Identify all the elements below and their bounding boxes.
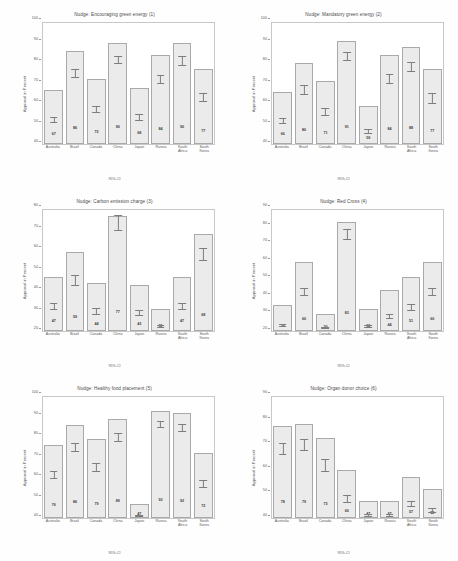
- error-bar-cap-top: [407, 62, 415, 63]
- bar[interactable]: 77: [108, 216, 127, 331]
- bar[interactable]: 86: [66, 51, 85, 144]
- bar[interactable]: 33: [359, 309, 378, 331]
- bar[interactable]: 76: [44, 445, 63, 518]
- bar[interactable]: 47: [359, 501, 378, 518]
- bar[interactable]: 91: [337, 41, 356, 144]
- error-bar: [71, 443, 79, 452]
- bar-series: 7686798947939272: [43, 397, 214, 518]
- error-bar-line: [75, 275, 76, 285]
- error-bar: [364, 325, 372, 327]
- bar[interactable]: 90: [173, 43, 192, 144]
- bar[interactable]: 60: [423, 262, 442, 331]
- bar[interactable]: 43: [130, 285, 149, 331]
- y-tick-label: 60: [263, 98, 267, 102]
- bar[interactable]: 78: [273, 426, 292, 518]
- bar[interactable]: 79: [87, 439, 106, 518]
- bar[interactable]: 84: [151, 55, 170, 144]
- x-tick-label: Russia: [151, 145, 170, 165]
- bar-value-label: 60: [424, 317, 441, 321]
- error-bar-cap-bottom: [135, 315, 143, 316]
- bar[interactable]: 59: [66, 252, 85, 331]
- y-axis-ticks: 405060708090100: [20, 396, 41, 519]
- bar[interactable]: 66: [273, 92, 292, 144]
- bar[interactable]: 72: [87, 79, 106, 144]
- x-tick-label: Brazil: [65, 519, 84, 539]
- error-bar-cap-top: [428, 288, 436, 289]
- error-bar-cap-bottom: [114, 63, 122, 64]
- x-tick-label: South Africa: [173, 145, 192, 165]
- error-bar-cap-top: [157, 421, 165, 422]
- x-axis-note: 95%-CI: [0, 364, 229, 368]
- x-tick-label: Canada: [316, 332, 335, 352]
- bar[interactable]: 93: [151, 411, 170, 518]
- y-tick-label: 60: [263, 464, 267, 468]
- bar[interactable]: 68: [194, 234, 213, 331]
- bar[interactable]: 31: [151, 309, 170, 331]
- error-bar-cap-bottom: [157, 427, 165, 428]
- bar[interactable]: 83: [337, 222, 356, 331]
- x-tick-label: Japan: [359, 145, 378, 165]
- bar[interactable]: 30: [316, 314, 335, 331]
- y-tick-label: 70: [34, 78, 38, 82]
- plot-area: 6680719159848877: [271, 22, 444, 145]
- bar[interactable]: 67: [44, 90, 63, 144]
- bar[interactable]: 73: [316, 438, 335, 518]
- bar[interactable]: 44: [380, 290, 399, 331]
- error-bar-cap-bottom: [428, 103, 436, 104]
- bar[interactable]: 35: [273, 305, 292, 331]
- bar[interactable]: 57: [402, 477, 421, 518]
- error-bar-cap-top: [71, 275, 79, 276]
- bar-group: 43: [130, 210, 149, 331]
- bar[interactable]: 60: [337, 470, 356, 518]
- bar-group: 68: [194, 210, 213, 331]
- bar[interactable]: 77: [423, 69, 442, 144]
- error-bar-cap-bottom: [71, 77, 79, 78]
- bar[interactable]: 51: [402, 277, 421, 331]
- y-tick-label: 30: [34, 306, 38, 310]
- error-bar: [71, 69, 79, 78]
- bar-value-label: 79: [88, 502, 105, 506]
- bar[interactable]: 86: [66, 425, 85, 518]
- bar-value-label: 76: [45, 503, 62, 507]
- error-bar-cap-top: [407, 304, 415, 305]
- bar[interactable]: 47: [380, 501, 399, 518]
- error-bar-cap-top: [279, 118, 287, 119]
- bar[interactable]: 84: [380, 55, 399, 144]
- bar[interactable]: 44: [87, 283, 106, 331]
- bar[interactable]: 77: [194, 69, 213, 144]
- y-tick-label: 60: [34, 472, 38, 476]
- y-tick-label: 80: [34, 57, 38, 61]
- bar[interactable]: 47: [130, 504, 149, 518]
- bar[interactable]: 60: [295, 262, 314, 331]
- error-bar: [322, 459, 330, 471]
- bar[interactable]: 68: [130, 88, 149, 144]
- error-bar: [157, 325, 165, 328]
- bar-value-label: 93: [152, 498, 169, 502]
- bar[interactable]: 72: [194, 453, 213, 518]
- bar-group: 76: [44, 397, 63, 518]
- bar-group: 84: [380, 23, 399, 144]
- bar[interactable]: 92: [173, 413, 192, 518]
- error-bar-cap-bottom: [279, 123, 287, 124]
- bar-value-label: 77: [195, 129, 212, 133]
- bar[interactable]: 88: [402, 47, 421, 144]
- bar[interactable]: 59: [359, 106, 378, 144]
- bar[interactable]: 90: [108, 43, 127, 144]
- bar[interactable]: 71: [316, 81, 335, 144]
- x-tick-label: South Korea: [195, 145, 214, 165]
- x-tick-label: South Africa: [402, 332, 421, 352]
- y-axis-ticks: 405060708090: [249, 396, 270, 519]
- bar[interactable]: 89: [108, 419, 127, 518]
- x-axis-note: 95%-CI: [229, 177, 458, 181]
- x-tick-label: China: [108, 332, 127, 352]
- error-bar-line: [304, 439, 305, 450]
- bar[interactable]: 47: [173, 277, 192, 331]
- error-bar: [135, 114, 143, 120]
- x-tick-label: South Korea: [424, 332, 443, 352]
- bar[interactable]: 47: [44, 277, 63, 331]
- x-axis-note: 95%-CI: [0, 551, 229, 555]
- bar[interactable]: 79: [295, 424, 314, 518]
- bar[interactable]: 52: [423, 489, 442, 518]
- bar-group: 84: [151, 23, 170, 144]
- bar[interactable]: 80: [295, 63, 314, 144]
